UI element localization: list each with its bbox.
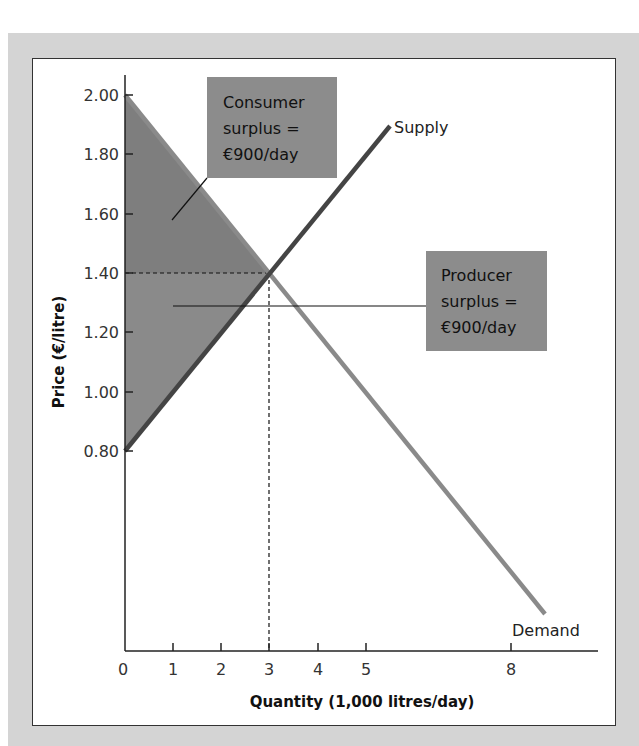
svg-text:Consumer: Consumer <box>223 93 305 112</box>
svg-text:2.00: 2.00 <box>83 86 119 105</box>
svg-text:2: 2 <box>216 660 226 679</box>
svg-text:1.20: 1.20 <box>83 323 119 342</box>
x-axis-title: Quantity (1,000 litres/day) <box>250 693 475 711</box>
svg-text:1: 1 <box>168 660 178 679</box>
svg-text:4: 4 <box>313 660 323 679</box>
svg-text:€900/day: €900/day <box>441 318 517 337</box>
svg-text:3: 3 <box>264 660 274 679</box>
supply-demand-chart: 2.00 1.80 1.60 1.40 1.20 1.00 0.80 0 1 2… <box>0 0 639 746</box>
producer-surplus-text: Producer surplus = €900/day <box>441 266 518 337</box>
svg-text:1.40: 1.40 <box>83 264 119 283</box>
svg-text:0: 0 <box>118 660 128 679</box>
svg-text:0.80: 0.80 <box>83 442 119 461</box>
svg-text:8: 8 <box>506 660 516 679</box>
consumer-surplus-text: Consumer surplus = €900/day <box>223 93 305 164</box>
svg-text:1.00: 1.00 <box>83 383 119 402</box>
svg-text:1.60: 1.60 <box>83 205 119 224</box>
svg-text:surplus =: surplus = <box>441 292 518 311</box>
y-tick-labels: 2.00 1.80 1.60 1.40 1.20 1.00 0.80 <box>83 86 119 461</box>
svg-text:Producer: Producer <box>441 266 512 285</box>
x-tick-labels: 0 1 2 3 4 5 8 <box>118 660 516 679</box>
svg-text:1.80: 1.80 <box>83 145 119 164</box>
x-ticks <box>173 643 511 651</box>
svg-text:surplus =: surplus = <box>223 119 300 138</box>
svg-text:€900/day: €900/day <box>223 145 299 164</box>
y-axis-title: Price (€/litre) <box>50 296 68 408</box>
svg-text:5: 5 <box>361 660 371 679</box>
demand-label: Demand <box>512 621 580 640</box>
supply-label: Supply <box>394 118 449 137</box>
